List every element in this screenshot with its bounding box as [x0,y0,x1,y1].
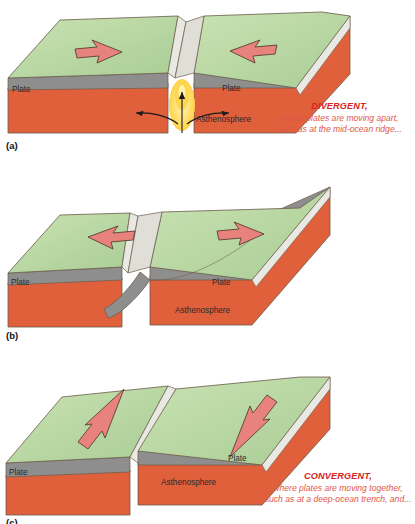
caption-line-1-divergent: where plates are moving apart, [262,113,415,124]
plate-label-left-b: Plate [11,278,30,287]
plate-label-right-c: Plate [228,454,247,463]
right-plate-block-b [128,187,330,325]
panel-transform: Plate Plate Asthenosphere (c) TRANSFORM,… [0,353,415,524]
caption-title-divergent: DIVERGENT, [262,101,415,113]
plate-label-left-a: Plate [12,85,31,94]
caption-line-2-divergent: such as at the mid-ocean ridge... [262,124,415,135]
convergent-block-diagram [0,175,415,353]
divergent-block-diagram [0,0,415,175]
asthenosphere-label-c: Asthenosphere [161,478,216,487]
panel-number-a: (a) [6,140,18,151]
panel-number-c: (c) [6,517,18,524]
caption-divergent: DIVERGENT, where plates are moving apart… [262,101,415,135]
plate-label-left-c: Plate [9,468,28,477]
panel-divergent: Plate Plate Asthenosphere (a) DIVERGENT,… [0,0,415,175]
asthenosphere-label-a: Asthenosphere [196,115,251,124]
panel-number-b: (b) [6,330,18,341]
plate-label-right-b: Plate [212,278,231,287]
asthenosphere-label-b: Asthenosphere [175,306,230,315]
transform-block-diagram [0,353,415,524]
plate-label-right-a: Plate [222,84,241,93]
panel-convergent: Plate Plate Asthenosphere (b) CONVERGENT… [0,175,415,353]
